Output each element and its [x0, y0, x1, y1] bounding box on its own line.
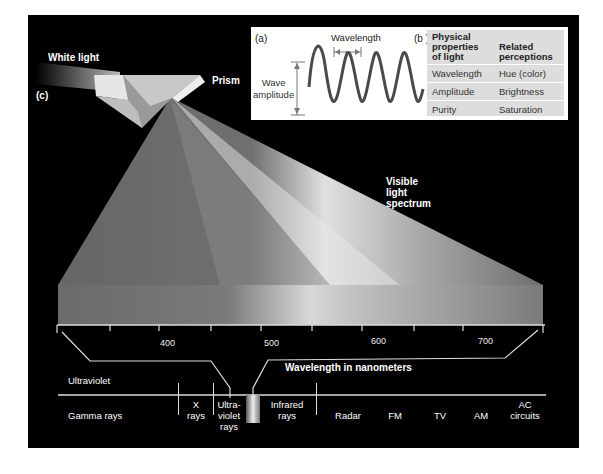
properties-table: Physical properties of light Related per… [427, 30, 564, 116]
tick-600: 600 [371, 336, 386, 346]
ultraviolet-label: Ultraviolet [68, 375, 110, 386]
panel-c-label: (c) [36, 90, 48, 101]
table-header-physical: Physical properties of light [432, 32, 478, 62]
band-ultraviolet-rays: Ultra- violet rays [213, 399, 245, 449]
band-divider [178, 383, 179, 415]
tick-500: 500 [264, 338, 279, 348]
table-row: Wavelength Hue (color) [427, 64, 564, 82]
band-x-rays: X rays [183, 399, 209, 449]
table-row: Amplitude Brightness [427, 82, 564, 100]
table-header-perceptions: Related perceptions [499, 42, 553, 62]
tick-700: 700 [478, 336, 493, 346]
prism-label: Prism [212, 75, 240, 86]
band-divider [316, 383, 317, 415]
band-ac-circuits: AC circuits [502, 399, 548, 449]
band-infrared-rays: Infrared rays [262, 399, 312, 449]
white-light-label: White light [48, 52, 99, 63]
spectrum-block [58, 285, 543, 325]
wave-svg [251, 27, 431, 120]
band-tv: TV [428, 410, 452, 460]
tick-400: 400 [160, 338, 175, 348]
axis-ticks [57, 325, 543, 333]
visible-spectrum-label: Visible light spectrum [386, 176, 431, 209]
band-gamma-rays: Gamma rays [68, 410, 138, 460]
visible-band-strip [246, 395, 260, 423]
band-am: AM [468, 410, 494, 460]
band-fm: FM [382, 410, 408, 460]
axis-title: Wavelength in nanometers [285, 362, 412, 373]
table-row: Purity Saturation [427, 100, 564, 118]
band-radar: Radar [328, 410, 368, 460]
